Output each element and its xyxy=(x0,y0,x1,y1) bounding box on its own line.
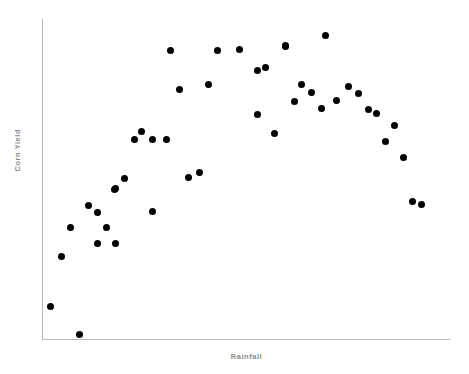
data-point xyxy=(271,130,278,137)
data-point xyxy=(254,111,261,118)
data-point xyxy=(121,175,128,182)
data-point xyxy=(262,64,269,71)
data-point xyxy=(355,90,362,97)
data-point xyxy=(47,303,54,310)
scatter-chart: Corn Yield Rainfall xyxy=(0,0,469,374)
data-point xyxy=(205,81,212,88)
data-point xyxy=(85,202,92,209)
data-point xyxy=(94,240,101,247)
data-point xyxy=(318,105,325,112)
data-point xyxy=(214,47,221,54)
data-point xyxy=(382,138,389,145)
data-point xyxy=(391,122,398,129)
data-point xyxy=(400,154,407,161)
data-point xyxy=(409,198,416,205)
data-point xyxy=(322,32,329,39)
data-point xyxy=(418,201,425,208)
data-point xyxy=(308,89,315,96)
data-point xyxy=(103,224,110,231)
x-axis-title: Rainfall xyxy=(0,352,469,361)
y-axis-line xyxy=(42,19,43,339)
data-point xyxy=(176,86,183,93)
data-point xyxy=(365,106,372,113)
data-point xyxy=(298,81,305,88)
data-point xyxy=(185,174,192,181)
data-point xyxy=(138,128,145,135)
data-point xyxy=(254,67,261,74)
data-point xyxy=(94,209,101,216)
plot-area xyxy=(0,0,469,374)
y-axis-title: Corn Yield xyxy=(13,138,22,172)
data-point xyxy=(58,253,65,260)
data-point xyxy=(112,240,119,247)
data-point xyxy=(236,46,243,53)
data-point xyxy=(345,83,352,90)
data-point xyxy=(76,331,83,338)
data-point xyxy=(131,136,138,143)
x-axis-line xyxy=(42,339,450,340)
data-point xyxy=(333,97,340,104)
data-point xyxy=(163,136,170,143)
data-point xyxy=(167,47,174,54)
data-point xyxy=(373,110,380,117)
data-point xyxy=(149,136,156,143)
data-point xyxy=(291,98,298,105)
data-point xyxy=(67,224,74,231)
data-point xyxy=(112,185,119,192)
data-point xyxy=(149,208,156,215)
data-point xyxy=(196,169,203,176)
